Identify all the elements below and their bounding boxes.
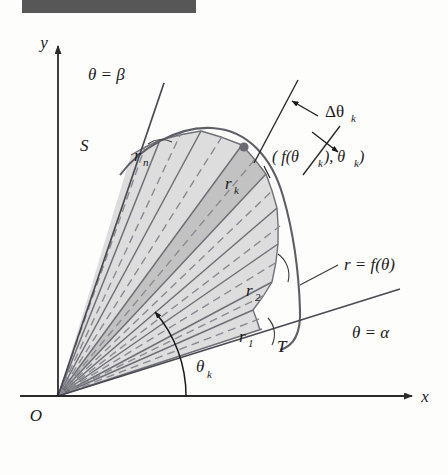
theta-k-label: θ k xyxy=(196,357,213,380)
delta-theta-k-label: Δθ k xyxy=(325,102,357,124)
theta-k-base: θ xyxy=(196,357,204,376)
x-axis-label: x xyxy=(420,387,429,406)
radius-label-r2-base: r xyxy=(246,281,253,300)
curve-endpoint-t-label: T xyxy=(277,337,288,356)
curve-point-label: ( f(θ k ), θ k ) xyxy=(272,148,364,169)
curve-endpoint-s-label: S xyxy=(80,136,89,155)
redacted-title-bar xyxy=(22,0,196,13)
radius-label-r1-base: r xyxy=(239,327,246,346)
curve-point-label-open: ( f(θ xyxy=(272,148,299,166)
origin-label: O xyxy=(30,406,42,425)
curve-point-label-mid: ), θ xyxy=(323,148,345,166)
radius-label-rk-base: r xyxy=(225,174,232,193)
curve-point-marker xyxy=(239,142,248,151)
delta-theta-k-base: Δθ xyxy=(325,102,344,121)
ray-beta-label: θ = β xyxy=(88,65,125,84)
y-axis-label: y xyxy=(38,33,48,52)
curve-label: r = f(θ) xyxy=(344,255,395,274)
delta-theta-k-sub: k xyxy=(351,112,357,124)
r2-tick-arc xyxy=(278,254,289,282)
theta-k-sub: k xyxy=(207,368,213,380)
radius-label-rn-base: r xyxy=(134,146,141,165)
curve-point-label-close: ) xyxy=(358,148,364,166)
radius-label-rn-sub: n xyxy=(143,156,149,168)
radius-label-r2-sub: 2 xyxy=(255,291,261,303)
ray-alpha-label: θ = α xyxy=(352,323,390,342)
polar-area-diagram: y x O θ = β θ = α r = f(θ) S T r n r k r… xyxy=(0,0,448,475)
curve-leader-line xyxy=(300,265,338,285)
radius-label-r1-sub: 1 xyxy=(248,337,254,349)
r1-tick-arc xyxy=(268,318,274,345)
polar-area-figure: y x O θ = β θ = α r = f(θ) S T r n r k r… xyxy=(0,0,448,475)
delta-theta-left-arrow xyxy=(292,101,318,116)
